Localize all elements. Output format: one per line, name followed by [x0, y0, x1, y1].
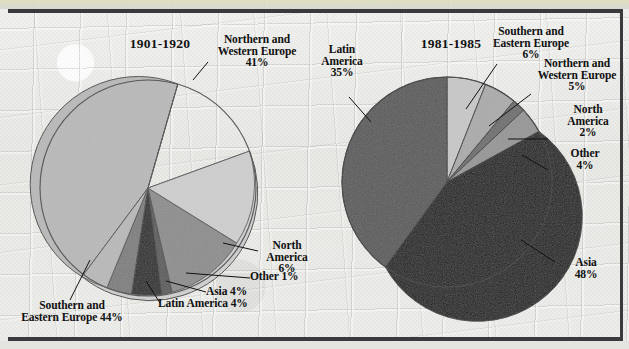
chart-figure: 1901-1920 Northern and Western Europe 41…: [0, 0, 629, 349]
bottom-rule: [8, 337, 623, 341]
right-label-asia: Asia 48%: [556, 257, 616, 280]
left-label-southern-eastern-europe: Southern and Eastern Europe 44%: [6, 300, 138, 323]
top-rule: [8, 9, 623, 13]
right-label-southern-eastern-europe: Southern and Eastern Europe 6%: [473, 26, 589, 61]
right-label-other: Other 4%: [554, 148, 616, 171]
right-label-latin-america: Latin America 35%: [306, 44, 378, 79]
left-label-northern-western-europe: Northern and Western Europe 41%: [198, 34, 316, 69]
right-label-northern-western-europe: Northern and Western Europe 5%: [524, 58, 629, 93]
left-label-other: Other 1%: [250, 271, 330, 283]
top-edge-strip: [0, 0, 629, 9]
bottom-edge-strip: [0, 341, 629, 349]
left-label-latin-america: Latin America 4%: [158, 298, 298, 310]
left-label-asia: Asia 4%: [206, 286, 286, 298]
right-label-north-america: North America 2%: [552, 104, 624, 139]
